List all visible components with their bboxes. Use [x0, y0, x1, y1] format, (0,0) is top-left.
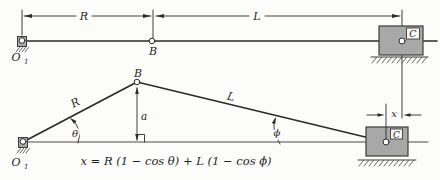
top-slider-pin: [399, 38, 405, 44]
top-pivot-pin: [19, 38, 25, 44]
linkage-diagram-svg: R L O 1 B C: [0, 0, 440, 180]
linkage-figure: R L O 1 B C: [0, 0, 440, 180]
top-dim-R-label: R: [79, 10, 88, 23]
dim-a-label: a: [141, 110, 147, 122]
top-B-label: B: [148, 45, 157, 58]
angle-theta-label: θ: [72, 128, 78, 139]
bottom-slider-pin: [383, 139, 389, 145]
angle-phi-label: ϕ: [274, 127, 281, 138]
top-slider-block: C: [379, 26, 423, 55]
bottom-C-label: C: [393, 130, 400, 140]
dim-x-label: x: [391, 108, 397, 119]
top-dim-L-label: L: [252, 10, 260, 23]
top-C-label: C: [409, 28, 417, 39]
bottom-pivot-pin: [20, 139, 26, 145]
displacement-equation: x = R (1 − cos θ) + L (1 − cos ϕ): [80, 154, 271, 168]
top-pin-B: [149, 38, 155, 44]
bottom-B-label: B: [133, 67, 142, 80]
bottom-pin-B: [134, 79, 140, 85]
